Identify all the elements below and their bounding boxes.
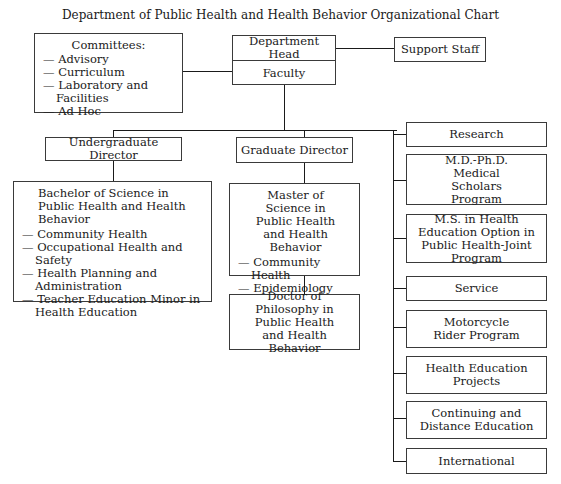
- connector-international: [393, 461, 406, 462]
- bachelor-item: — Teacher Education Minor in Health Educ…: [22, 293, 205, 319]
- bachelor-degree-box: Bachelor of Science in Public Health and…: [13, 181, 212, 302]
- undergraduate-director-box: Undergraduate Director: [45, 137, 182, 161]
- committees-box: Committees: — Advisory — Curriculum — La…: [34, 33, 183, 113]
- continuing-education-box: Continuing and Distance Education: [406, 401, 547, 439]
- motorcycle-rider-box: Motorcycle Rider Program: [406, 310, 547, 348]
- health-education-projects-label: Health Education Projects: [417, 362, 536, 388]
- connector-faculty-down: [284, 85, 285, 130]
- phd-degree-box: Doctor of Philosophy in Public Health an…: [229, 294, 360, 350]
- phd-degree-title: Doctor of Philosophy in Public Health an…: [244, 290, 345, 355]
- master-degree-title: Master of Science in Public Health and H…: [238, 189, 353, 254]
- connector-committees-faculty: [183, 71, 232, 72]
- bachelor-degree-list: — Community Health — Occupational Health…: [22, 228, 205, 319]
- continuing-education-label: Continuing and Distance Education: [415, 407, 538, 433]
- connector-undergrad-degree: [113, 161, 114, 181]
- committee-item: — Ad Hoc: [43, 105, 174, 118]
- connector-continuing-ed: [393, 418, 406, 419]
- master-item: — Community Health: [238, 256, 353, 282]
- committees-list: — Advisory — Curriculum — Laboratory and…: [43, 53, 174, 118]
- committees-heading: Committees:: [43, 39, 174, 52]
- connector-horizontal-main: [113, 130, 397, 131]
- service-box: Service: [406, 276, 547, 301]
- faculty-label: Faculty: [233, 61, 335, 85]
- mdphd-label: M.D.-Ph.D. Medical Scholars Program: [427, 154, 526, 206]
- master-degree-box: Master of Science in Public Health and H…: [229, 183, 360, 276]
- bachelor-item: — Occupational Health and Safety: [22, 241, 205, 267]
- chart-title: Department of Public Health and Health B…: [0, 8, 561, 22]
- connector-service: [393, 288, 406, 289]
- connector-research: [393, 134, 406, 135]
- motorcycle-rider-label: Motorcycle Rider Program: [433, 316, 520, 342]
- department-head-label: Department Head: [233, 36, 335, 61]
- ms-health-education-box: M.S. in Health Education Option in Publi…: [406, 214, 547, 263]
- graduate-director-box: Graduate Director: [236, 137, 353, 163]
- international-box: International: [406, 448, 547, 474]
- connector-mdphd: [393, 180, 406, 181]
- ms-health-education-label: M.S. in Health Education Option in Publi…: [411, 213, 542, 265]
- connector-graduate: [304, 130, 305, 137]
- connector-health-ed-projects: [393, 373, 406, 374]
- bachelor-degree-title: Bachelor of Science in Public Health and…: [22, 187, 205, 226]
- health-education-projects-box: Health Education Projects: [406, 356, 547, 394]
- support-staff-box: Support Staff: [394, 37, 486, 62]
- department-head-box: Department Head Faculty: [232, 35, 336, 85]
- connector-graduate-ms: [304, 163, 305, 183]
- connector-ms-health-ed: [393, 238, 406, 239]
- connector-head-support: [336, 48, 394, 49]
- research-box: Research: [406, 122, 547, 147]
- bachelor-item: — Health Planning and Administration: [22, 267, 205, 293]
- connector-motorcycle: [393, 327, 406, 328]
- committee-item: — Laboratory and Facilities: [43, 79, 174, 105]
- mdphd-box: M.D.-Ph.D. Medical Scholars Program: [406, 154, 547, 205]
